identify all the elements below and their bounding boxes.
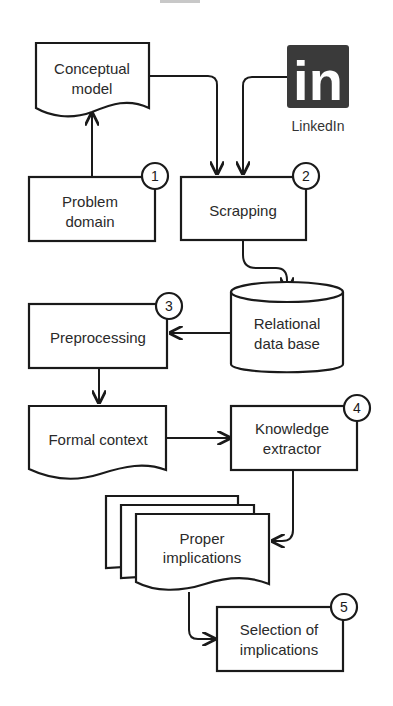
problem-domain-line1: Problem: [62, 193, 118, 210]
conceptual-model-line2: model: [72, 80, 113, 97]
knowledge-extractor-line2: extractor: [263, 440, 321, 457]
linkedin-label: LinkedIn: [292, 118, 345, 134]
svg-text:4: 4: [353, 400, 361, 416]
node-selection-implications[interactable]: Selection of implications 5: [217, 594, 357, 671]
step-badge-1: 1: [142, 163, 168, 189]
conceptual-model-line1: Conceptual: [54, 60, 130, 77]
node-knowledge-extractor[interactable]: Knowledge extractor 4: [231, 395, 370, 470]
svg-text:5: 5: [340, 599, 348, 615]
flow-diagram: Conceptual model in LinkedIn Problem dom…: [0, 0, 393, 706]
preprocessing-label: Preprocessing: [50, 329, 146, 346]
relational-db-line1: Relational: [254, 315, 321, 332]
svg-text:2: 2: [302, 168, 310, 184]
node-preprocessing[interactable]: Preprocessing 3: [29, 293, 182, 368]
knowledge-extractor-line1: Knowledge: [255, 420, 329, 437]
node-relational-db[interactable]: Relational data base: [231, 282, 343, 372]
proper-implications-line1: Proper: [179, 530, 224, 547]
node-linkedin[interactable]: in LinkedIn: [287, 45, 349, 134]
edge-linkedin-to-scrapping: [243, 77, 287, 174]
relational-db-line2: data base: [254, 335, 320, 352]
svg-text:1: 1: [151, 168, 159, 184]
edge-proper-to-selection: [189, 592, 215, 639]
formal-context-label: Formal context: [48, 431, 148, 448]
node-scrapping[interactable]: Scrapping 2: [181, 163, 319, 240]
node-problem-domain[interactable]: Problem domain 1: [29, 163, 168, 241]
selection-implications-line1: Selection of: [240, 621, 319, 638]
selection-implications-line2: implications: [240, 641, 318, 658]
edge-conceptual-to-scrapping: [150, 76, 217, 174]
step-badge-5: 5: [331, 594, 357, 620]
step-badge-2: 2: [293, 163, 319, 189]
step-badge-4: 4: [344, 395, 370, 421]
problem-domain-line2: domain: [65, 213, 114, 230]
edge-knowledge-to-proper: [272, 470, 293, 541]
node-proper-implications[interactable]: Proper implications: [106, 496, 269, 590]
node-formal-context[interactable]: Formal context: [29, 406, 166, 479]
proper-implications-line2: implications: [163, 549, 241, 566]
step-badge-3: 3: [156, 293, 182, 319]
scrapping-label: Scrapping: [209, 202, 277, 219]
cropped-title-fragment: [160, 0, 200, 3]
svg-text:3: 3: [165, 298, 173, 314]
linkedin-logo-glyph: in: [293, 49, 343, 112]
node-conceptual-model[interactable]: Conceptual model: [36, 43, 149, 116]
